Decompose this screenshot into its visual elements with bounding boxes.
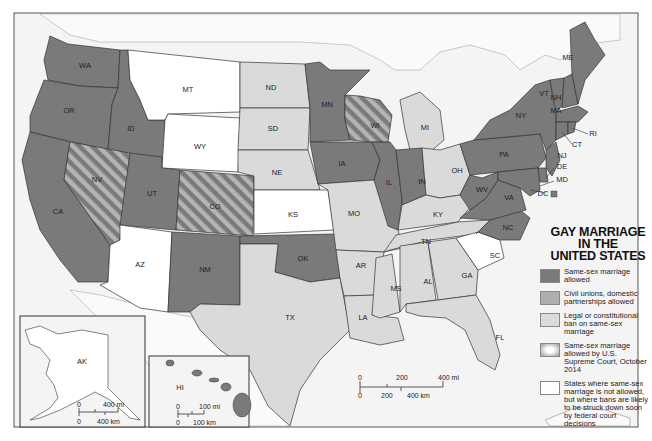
- hawaii-island-kauai: [166, 360, 174, 366]
- label-ND: ND: [266, 83, 277, 92]
- legend-label-civil-unions: Civil unions, domestic partnerships allo…: [564, 290, 648, 306]
- label-MA: MA: [550, 106, 561, 115]
- label-PA: PA: [499, 150, 508, 159]
- legend-item-allowed: Same-sex marriage allowed: [540, 268, 648, 284]
- label-IA: IA: [338, 159, 345, 168]
- hawaii-island-oahu: [192, 370, 202, 376]
- label-FL: FL: [496, 333, 505, 342]
- swatch-civil-unions: [540, 291, 560, 305]
- legend-item-court-allowed: Same-sex marriage allowed by U.S. Suprem…: [540, 342, 648, 374]
- label-NE: NE: [272, 168, 282, 177]
- label-MN: MN: [321, 100, 333, 109]
- legend-label-court-allowed: Same-sex marriage allowed by U.S. Suprem…: [564, 342, 648, 374]
- label-DE: DE: [557, 162, 567, 171]
- hi-scale-mi-0: 0: [176, 403, 180, 410]
- hawaii-inset: HI 0 100 mi 0 100 km: [149, 356, 251, 427]
- alaska-inset: AK 0 400 mi 0 400 km: [20, 316, 145, 427]
- dc-marker: [551, 191, 557, 197]
- label-AL: AL: [423, 277, 432, 286]
- swatch-struck-down-soon: [540, 381, 560, 395]
- label-ME: ME: [562, 53, 573, 62]
- legend-item-civil-unions: Civil unions, domestic partnerships allo…: [540, 290, 648, 306]
- title-line-3: UNITED STATES: [548, 250, 648, 262]
- scale-km-400: 400 km: [407, 392, 430, 399]
- legend-title: GAY MARRIAGE IN THE UNITED STATES: [548, 226, 648, 262]
- ak-scale-mi-0: 0: [77, 401, 81, 408]
- label-KS: KS: [288, 210, 298, 219]
- swatch-ban: [540, 313, 560, 327]
- label-NY: NY: [516, 111, 526, 120]
- label-AK: AK: [77, 357, 87, 366]
- scale-km-200: 200: [381, 392, 393, 399]
- label-NC: NC: [503, 223, 514, 232]
- hawaii-island-molokai: [209, 378, 219, 382]
- label-NM: NM: [199, 265, 211, 274]
- label-TN: TN: [421, 237, 431, 246]
- legend-label-struck-down-soon: States where same-sex marriage is not al…: [564, 380, 648, 428]
- label-MO: MO: [348, 209, 360, 218]
- ak-scale-km-400: 400 km: [97, 418, 120, 425]
- label-LA: LA: [358, 313, 367, 322]
- label-WA: WA: [79, 61, 91, 70]
- swatch-allowed: [540, 269, 560, 283]
- ak-scale-mi-400: 400 mi: [103, 401, 124, 408]
- label-MS: MS: [390, 284, 401, 293]
- label-SC: SC: [490, 251, 501, 260]
- label-OH: OH: [451, 166, 462, 175]
- scale-mi-0: 0: [358, 374, 362, 381]
- swatch-court-allowed: [540, 343, 560, 357]
- label-MD: MD: [556, 175, 568, 184]
- label-OK: OK: [298, 254, 309, 263]
- scale-mi-200: 200: [396, 374, 408, 381]
- label-VA: VA: [504, 193, 513, 202]
- label-WI: WI: [370, 121, 379, 130]
- hawaii-island-maui: [221, 383, 231, 391]
- label-MI: MI: [421, 123, 429, 132]
- label-DC: DC: [538, 189, 549, 198]
- ak-scale-km-0: 0: [77, 418, 81, 425]
- label-HI: HI: [176, 383, 184, 392]
- label-KY: KY: [433, 210, 443, 219]
- map-legend: GAY MARRIAGE IN THE UNITED STATES Same-s…: [540, 226, 648, 428]
- label-AR: AR: [356, 261, 367, 270]
- label-TX: TX: [285, 313, 295, 322]
- hi-scale-km-100: 100 km: [193, 419, 216, 426]
- label-CA: CA: [53, 207, 63, 216]
- label-MT: MT: [183, 85, 194, 94]
- legend-item-ban: Legal or constitutional ban on same-sex …: [540, 312, 648, 336]
- label-ID: ID: [127, 124, 135, 133]
- label-IN: IN: [418, 177, 426, 186]
- label-CO: CO: [209, 202, 220, 211]
- label-SD: SD: [268, 124, 279, 133]
- legend-label-ban: Legal or constitutional ban on same-sex …: [564, 312, 648, 336]
- label-NH: NH: [551, 93, 562, 102]
- label-AZ: AZ: [135, 260, 145, 269]
- state-DE: [538, 168, 548, 182]
- scale-km-0: 0: [358, 392, 362, 399]
- label-IL: IL: [386, 178, 392, 187]
- label-VT: VT: [539, 89, 549, 98]
- label-WY: WY: [194, 142, 206, 151]
- legend-label-allowed: Same-sex marriage allowed: [564, 268, 648, 284]
- label-NJ: NJ: [557, 151, 566, 160]
- label-CT: CT: [572, 140, 582, 149]
- hi-scale-km-0: 0: [176, 419, 180, 426]
- label-WV: WV: [476, 185, 488, 194]
- label-UT: UT: [147, 189, 157, 198]
- label-GA: GA: [462, 271, 473, 280]
- hi-scale-mi-100: 100 mi: [199, 403, 220, 410]
- scale-mi-400: 400 mi: [438, 374, 459, 381]
- label-OR: OR: [63, 106, 75, 115]
- label-NV: NV: [92, 175, 102, 184]
- label-RI: RI: [589, 129, 597, 138]
- hawaii-island-big: [233, 393, 251, 417]
- legend-item-struck-down-soon: States where same-sex marriage is not al…: [540, 380, 648, 428]
